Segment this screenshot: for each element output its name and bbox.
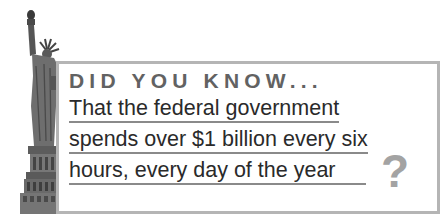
heading: DID YOU KNOW... <box>69 69 323 93</box>
question-mark-icon: ? <box>381 146 409 196</box>
fact-box: DID YOU KNOW... That the federal governm… <box>56 61 440 214</box>
fact-line: hours, every day of the year <box>69 158 366 185</box>
fact-line: spends over $1 billion every six <box>69 127 368 154</box>
fact-line-text: hours, every day of the year <box>69 158 336 182</box>
fact-line: That the federal government <box>69 96 339 123</box>
